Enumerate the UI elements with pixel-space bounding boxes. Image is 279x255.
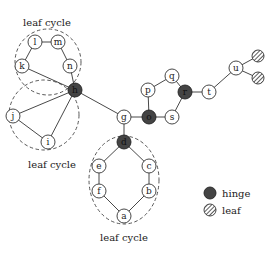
node-m: m xyxy=(51,35,65,49)
node-g: g xyxy=(117,110,131,124)
leaf-node-1 xyxy=(252,50,264,62)
node-u: u xyxy=(229,61,243,75)
node-t: t xyxy=(202,85,216,99)
node-i: i xyxy=(41,135,55,149)
node-l: l xyxy=(28,35,42,49)
node-label: j xyxy=(11,111,15,121)
node-label: i xyxy=(47,137,50,147)
graph-diagram: l m k n h j i g d e c f b a o p q r s t … xyxy=(0,0,279,255)
caption-leaf-cycle-left: leaf cycle xyxy=(28,159,76,170)
node-n: n xyxy=(63,59,77,73)
node-label: c xyxy=(146,161,151,171)
node-label: u xyxy=(233,63,239,73)
node-j: j xyxy=(6,109,20,123)
node-d-hinge: d xyxy=(117,135,131,149)
legend-leaf-icon xyxy=(204,204,216,216)
node-label: r xyxy=(183,87,188,97)
node-label: d xyxy=(121,137,127,147)
node-label: g xyxy=(121,112,127,122)
node-h-hinge: h xyxy=(68,83,82,97)
node-k: k xyxy=(15,59,29,73)
node-label: m xyxy=(54,37,63,47)
node-p: p xyxy=(141,83,155,97)
leaf-node-2 xyxy=(252,72,264,84)
node-s: s xyxy=(165,110,179,124)
node-label: t xyxy=(207,87,211,97)
node-o-hinge: o xyxy=(142,110,156,124)
caption-leaf-cycle-top: leaf cycle xyxy=(23,17,71,28)
caption-leaf-cycle-bottom: leaf cycle xyxy=(100,232,148,243)
node-label: n xyxy=(67,61,73,71)
node-a: a xyxy=(117,209,131,223)
legend-hinge-icon xyxy=(204,187,216,199)
node-label: e xyxy=(96,161,101,171)
node-label: b xyxy=(146,186,152,196)
node-label: o xyxy=(146,112,151,122)
node-label: k xyxy=(19,61,25,71)
node-c: c xyxy=(142,159,156,173)
legend-leaf-label: leaf xyxy=(222,205,242,216)
node-f: f xyxy=(92,184,106,198)
node-label: p xyxy=(145,85,151,95)
legend-hinge-label: hinge xyxy=(222,188,250,199)
node-r-hinge: r xyxy=(178,85,192,99)
node-q: q xyxy=(165,69,179,83)
node-label: s xyxy=(170,112,175,122)
node-label: l xyxy=(34,37,37,47)
node-label: q xyxy=(169,71,175,81)
node-e: e xyxy=(92,159,106,173)
node-b: b xyxy=(142,184,156,198)
leaf-cycle-outlines xyxy=(9,29,159,224)
legend: hinge leaf xyxy=(204,187,250,216)
node-label: a xyxy=(121,211,127,221)
node-label: h xyxy=(72,85,78,95)
